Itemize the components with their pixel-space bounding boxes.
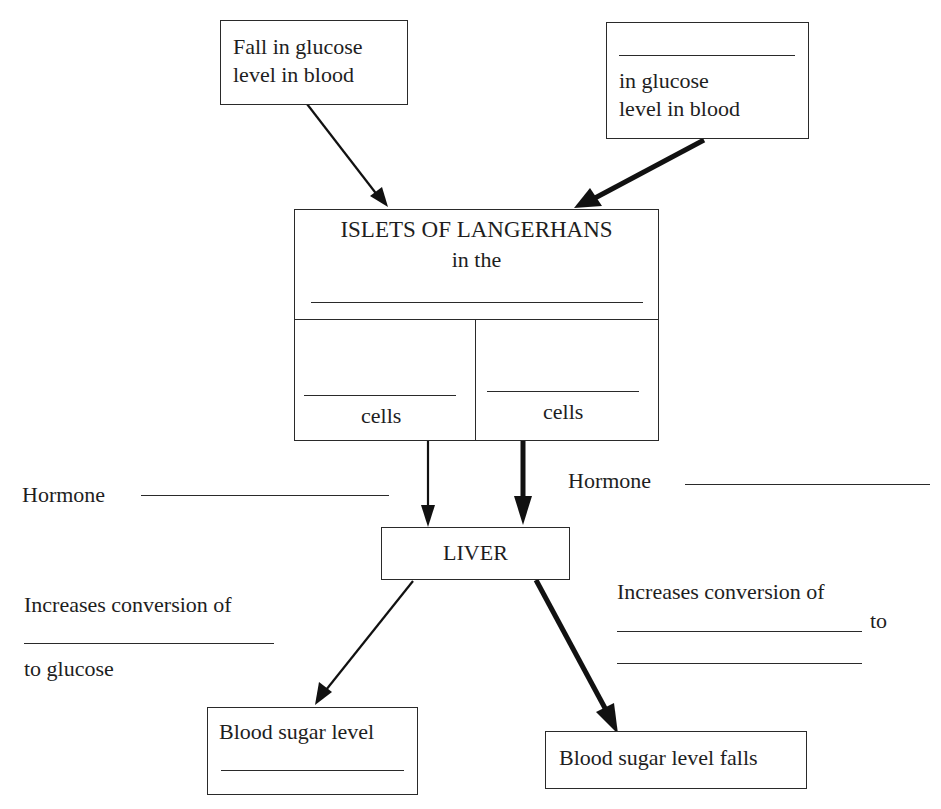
blank-hormone-right[interactable] (685, 484, 930, 485)
blank-hormone-left[interactable] (141, 495, 389, 496)
arrow-liver-to-bottom-left (315, 581, 413, 705)
bottom-right-label: Blood sugar level falls (559, 744, 758, 772)
islets-divider-horizontal (295, 319, 658, 320)
right-conversion-line1: Increases conversion of (617, 578, 825, 606)
box-change-in-glucose: in glucose level in blood (606, 22, 809, 139)
box-fall-line1: Fall in glucose (233, 33, 363, 61)
box-blood-sugar-level: Blood sugar level (207, 707, 418, 795)
hormone-left-label: Hormone (22, 481, 105, 509)
islets-subtitle: in the (295, 246, 658, 274)
box-change-line1: in glucose (619, 67, 709, 95)
box-islets-of-langerhans: ISLETS OF LANGERHANS in the cells cells (294, 209, 659, 441)
right-cells-label: cells (543, 398, 583, 426)
blank-right-cells[interactable] (487, 391, 639, 392)
arrow-rise-to-islets (574, 140, 704, 208)
hormone-right-label: Hormone (568, 467, 651, 495)
blank-right-conversion-1[interactable] (617, 631, 862, 632)
arrow-right-cells-to-liver (514, 436, 532, 525)
islets-title: ISLETS OF LANGERHANS (295, 216, 658, 244)
box-blood-sugar-falls: Blood sugar level falls (545, 731, 807, 789)
arrow-liver-to-bottom-right (536, 580, 618, 734)
arrow-fall-to-islets (307, 104, 388, 207)
box-change-line2: level in blood (619, 95, 740, 123)
left-conversion-line1: Increases conversion of (24, 591, 232, 619)
box-fall-line2: level in blood (233, 61, 354, 89)
box-liver: LIVER (381, 527, 570, 580)
bottom-left-label: Blood sugar level (219, 718, 374, 746)
blank-left-conversion[interactable] (24, 643, 274, 644)
liver-label: LIVER (382, 539, 569, 567)
blank-left-cells[interactable] (304, 395, 456, 396)
left-conversion-line3: to glucose (24, 655, 114, 683)
islets-divider-vertical (475, 319, 476, 440)
blank-right-conversion-2[interactable] (617, 663, 862, 664)
arrow-left-cells-to-liver (421, 440, 435, 527)
blank-islets-organ[interactable] (311, 302, 643, 303)
blank-blood-sugar[interactable] (221, 770, 404, 771)
box-fall-in-glucose: Fall in glucose level in blood (220, 20, 408, 105)
right-conversion-to: to (870, 607, 887, 635)
blank-top-right[interactable] (619, 55, 795, 56)
left-cells-label: cells (361, 402, 401, 430)
diagram-canvas: Fall in glucose level in blood in glucos… (0, 0, 941, 809)
